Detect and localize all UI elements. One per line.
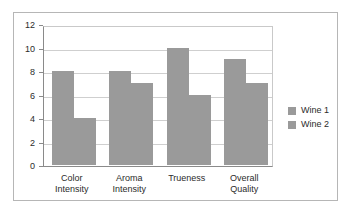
y-axis-tick-label: 4 — [14, 115, 35, 124]
legend-item[interactable]: Wine 1 — [288, 105, 329, 116]
y-axis-tick-label: 2 — [14, 139, 35, 148]
bar-group — [103, 27, 161, 165]
bar-group — [218, 27, 276, 165]
bar-chart: 121086420 Color IntensityAroma Intensity… — [14, 13, 337, 200]
y-axis-tick-label: 6 — [14, 92, 35, 101]
legend-label: Wine 2 — [301, 120, 329, 129]
x-axis-category-label: Overall Quality — [216, 173, 274, 194]
y-axis-tick — [39, 143, 43, 144]
x-axis-category-label: Trueness — [158, 173, 216, 184]
y-axis-tick-label: 8 — [14, 68, 35, 77]
chart-legend: Wine 1Wine 2 — [288, 105, 329, 133]
chart-figure-frame: 121086420 Color IntensityAroma Intensity… — [13, 12, 338, 201]
y-axis-tick-label: 12 — [14, 21, 35, 30]
bar-2 — [246, 83, 268, 165]
bar-2 — [131, 83, 153, 165]
bar-2 — [189, 95, 211, 166]
legend-swatch-icon — [288, 107, 296, 115]
y-axis-tick-label: 0 — [14, 162, 35, 171]
bars-layer — [45, 27, 272, 165]
bar-1 — [52, 71, 74, 165]
y-axis-tick — [39, 25, 43, 26]
plot-area — [43, 26, 273, 167]
y-axis-tick — [39, 96, 43, 97]
y-axis-tick-label: 10 — [14, 45, 35, 54]
y-axis-tick — [39, 166, 43, 167]
bar-group — [160, 27, 218, 165]
legend-item[interactable]: Wine 2 — [288, 119, 329, 130]
y-axis-tick — [39, 49, 43, 50]
bar-1 — [109, 71, 131, 165]
x-axis-category-label: Aroma Intensity — [101, 173, 159, 194]
legend-label: Wine 1 — [301, 106, 329, 115]
legend-swatch-icon — [288, 121, 296, 129]
bar-1 — [167, 48, 189, 166]
bar-2 — [74, 118, 96, 165]
x-axis-category-label: Color Intensity — [43, 173, 101, 194]
y-axis-tick — [39, 72, 43, 73]
bar-1 — [224, 59, 246, 165]
y-axis-tick — [39, 119, 43, 120]
bar-group — [45, 27, 103, 165]
